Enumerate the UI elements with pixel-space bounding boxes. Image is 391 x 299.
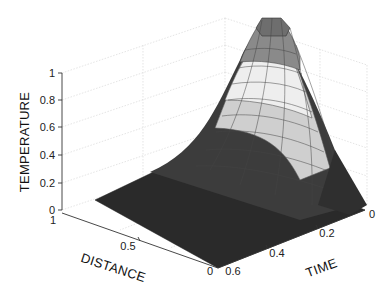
z-tick: 1 bbox=[49, 67, 55, 79]
z-tick: 0.2 bbox=[40, 177, 55, 189]
z-tick-labels: 1 0.8 0.6 0.4 0.2 0 bbox=[40, 67, 55, 216]
z-tick: 0.4 bbox=[40, 149, 55, 161]
z-axis-label: TEMPERATURE bbox=[17, 92, 32, 193]
y-tick: 0.4 bbox=[269, 247, 284, 259]
x-tick: 1 bbox=[50, 214, 56, 226]
z-tick: 0.8 bbox=[40, 94, 55, 106]
z-tick: 0.6 bbox=[40, 121, 55, 133]
x-axis-label: DISTANCE bbox=[79, 250, 148, 285]
y-tick: 0 bbox=[369, 208, 375, 220]
y-tick: 0.6 bbox=[225, 265, 240, 277]
y-tick: 0.2 bbox=[319, 227, 334, 239]
y-axis-label: TIME bbox=[304, 255, 339, 280]
x-tick: 0 bbox=[207, 265, 213, 277]
x-tick: 0.5 bbox=[120, 240, 135, 252]
surface-plot: 1 0.8 0.6 0.4 0.2 0 1 0.5 0 0.6 0.4 0.2 … bbox=[0, 0, 391, 299]
